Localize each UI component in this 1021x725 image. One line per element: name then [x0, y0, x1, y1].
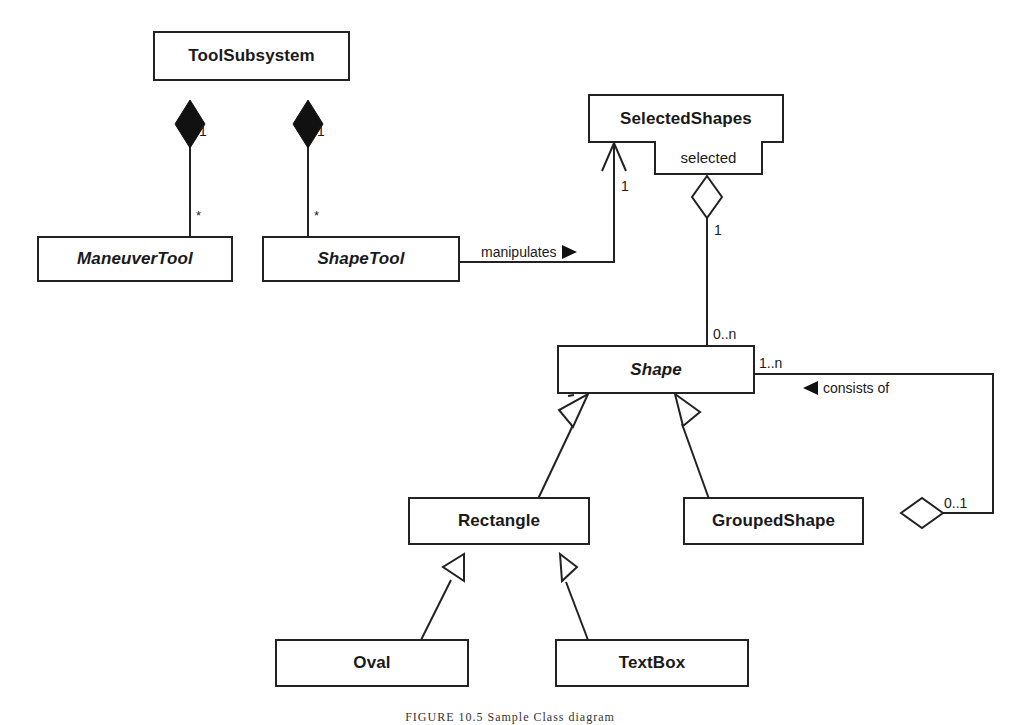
class-shapetool[interactable]: ShapeTool [262, 236, 460, 282]
class-maneuvertool[interactable]: ManeuverTool [37, 236, 233, 282]
generalization-line-groupedshape [682, 424, 709, 499]
class-shape[interactable]: Shape [557, 345, 755, 394]
figure-caption: FIGURE 10.5 Sample Class diagram [300, 710, 720, 725]
aggregation-diamond-icon [692, 176, 722, 218]
multiplicity-label: 1 [714, 223, 722, 237]
class-name: TextBox [619, 653, 686, 673]
direction-arrow-right-icon [562, 245, 577, 259]
generalization-line-textbox [566, 582, 588, 640]
multiplicity-label: 0..n [713, 327, 736, 341]
class-textbox[interactable]: TextBox [555, 639, 749, 687]
multiplicity-label: 1..n [759, 356, 782, 370]
generalization-triangle-icon [675, 394, 700, 426]
class-name: ToolSubsystem [188, 46, 315, 66]
aggregation-diamond-icon [901, 498, 943, 528]
class-rectangle[interactable]: Rectangle [408, 497, 590, 545]
direction-arrow-left-icon [803, 381, 818, 395]
qualifier-label: selected [681, 149, 737, 166]
generalization-line-oval [421, 580, 451, 640]
class-toolsubsystem[interactable]: ToolSubsystem [153, 31, 350, 81]
association-label-consists-of: consists of [823, 381, 889, 395]
class-name: Rectangle [458, 511, 540, 531]
class-name: ManeuverTool [77, 249, 193, 269]
generalization-triangle-icon [443, 554, 464, 581]
generalization-triangle-icon [559, 394, 588, 427]
association-label-manipulates: manipulates [481, 245, 557, 259]
qualifier-selected: selected [654, 141, 763, 175]
class-selectedshapes[interactable]: SelectedShapes [588, 94, 784, 143]
multiplicity-label: 1 [621, 179, 629, 193]
class-groupedshape[interactable]: GroupedShape [683, 497, 864, 545]
class-name: Shape [630, 360, 682, 380]
multiplicity-label: * [196, 209, 201, 222]
multiplicity-label: * [314, 209, 319, 222]
class-name: Oval [353, 653, 390, 673]
generalization-triangle-icon [560, 554, 577, 581]
class-name: GroupedShape [712, 511, 835, 531]
multiplicity-label: 1 [199, 124, 207, 138]
multiplicity-label: 1 [317, 124, 325, 138]
class-oval[interactable]: Oval [275, 639, 469, 687]
multiplicity-label: 0..1 [944, 496, 967, 510]
class-name: ShapeTool [317, 249, 404, 269]
class-name: SelectedShapes [620, 109, 752, 129]
generalization-line-rectangle [538, 423, 574, 499]
relationship-lines [0, 0, 1021, 725]
